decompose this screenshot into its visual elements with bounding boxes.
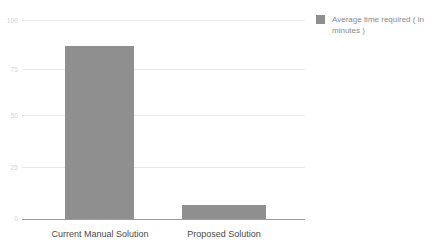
x-axis-line [22, 219, 305, 220]
bar-chart: 100 75 50 25 0 Current Manual Solution P… [0, 0, 438, 246]
legend-item-label: Average time required ( in minutes ) [332, 14, 432, 36]
y-axis-tick-label-50: 50 [0, 112, 18, 119]
plot-area: 100 75 50 25 0 Current Manual Solution P… [0, 0, 312, 246]
square-swatch-icon [316, 15, 325, 24]
x-axis-tick-label-current-manual-solution: Current Manual Solution [34, 229, 166, 240]
bar-proposed-solution[interactable] [182, 205, 266, 219]
y-axis-tick-label-100: 100 [0, 17, 18, 24]
x-axis-tick-label-proposed-solution: Proposed Solution [162, 229, 286, 240]
legend[interactable]: Average time required ( in minutes ) [316, 14, 436, 36]
y-axis-tick-label-25: 25 [0, 164, 18, 171]
y-axis-tick-label-75: 75 [0, 66, 18, 73]
y-axis-tick-label-0: 0 [0, 215, 18, 222]
bar-current-manual-solution[interactable] [65, 46, 134, 219]
gridline-100 [22, 20, 305, 21]
